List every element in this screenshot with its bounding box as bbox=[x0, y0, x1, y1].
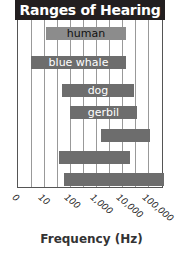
x-tick: 100,000 bbox=[141, 192, 176, 224]
bar-unlabeled-2 bbox=[59, 151, 130, 164]
gridline bbox=[148, 20, 149, 187]
x-tick: 10 bbox=[37, 192, 52, 207]
bar-human: human bbox=[46, 27, 126, 40]
gridline bbox=[44, 20, 45, 187]
gridline bbox=[57, 20, 58, 187]
x-tick: 100 bbox=[63, 192, 83, 211]
chart-title: Ranges of Hearing bbox=[15, 0, 165, 20]
bar-unlabeled-3 bbox=[64, 173, 164, 186]
x-tick: 0 bbox=[11, 192, 22, 203]
gridline bbox=[31, 20, 32, 187]
bar-gerbil: gerbil bbox=[70, 106, 137, 119]
bar-blue-whale: blue whale bbox=[31, 56, 126, 69]
x-tick: 10,000 bbox=[115, 192, 146, 220]
bar-unlabeled-1 bbox=[101, 129, 150, 142]
gridline bbox=[135, 20, 136, 187]
x-tick: 1,000 bbox=[89, 192, 115, 216]
bar-dog: dog bbox=[62, 84, 134, 97]
x-axis-label: Frequency (Hz) bbox=[0, 232, 183, 246]
plot-area: human blue whale dog gerbil bbox=[17, 20, 163, 188]
